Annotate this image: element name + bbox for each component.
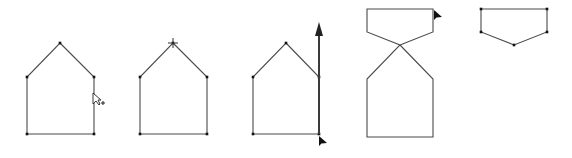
- vertex-handle[interactable]: [26, 133, 29, 136]
- vertex-handle[interactable]: [285, 42, 288, 45]
- vertex-handle[interactable]: [546, 8, 549, 11]
- frame-house-4: [367, 9, 442, 137]
- shape-outline[interactable]: [140, 43, 207, 134]
- vertex-handle[interactable]: [139, 76, 142, 79]
- vertex-handle[interactable]: [26, 76, 29, 79]
- frame-house-2: [139, 38, 209, 135]
- vertex-handle[interactable]: [252, 133, 255, 136]
- vertex-handle[interactable]: [206, 76, 209, 79]
- frame-shape-5: [480, 8, 549, 47]
- vertex-handle[interactable]: [252, 76, 255, 79]
- frame-house-3: [252, 22, 327, 146]
- vertex-handle[interactable]: [480, 31, 483, 34]
- vertex-handle[interactable]: [59, 42, 62, 45]
- arrow-cursor-icon: [434, 10, 442, 20]
- arrow-plus-icon: [93, 93, 105, 105]
- vertex-handle[interactable]: [546, 31, 549, 34]
- vertex-handle[interactable]: [139, 133, 142, 136]
- vertex-handle[interactable]: [93, 133, 96, 136]
- drag-arrow-icon: [315, 22, 323, 134]
- shape-outline[interactable]: [481, 9, 547, 45]
- shape-outline[interactable]: [253, 43, 319, 134]
- arrow-cursor-icon: [319, 136, 327, 146]
- diagram-canvas: [0, 0, 572, 158]
- vertex-handle[interactable]: [206, 133, 209, 136]
- frame-house-1: [26, 42, 105, 136]
- vertex-handle[interactable]: [93, 76, 96, 79]
- vertex-handle[interactable]: [513, 44, 516, 47]
- shape-outline[interactable]: [367, 9, 433, 137]
- vertex-handle[interactable]: [480, 8, 483, 11]
- shape-outline[interactable]: [27, 43, 94, 134]
